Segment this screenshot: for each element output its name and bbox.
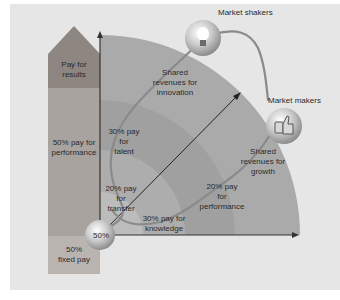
growth-label: Shared revenues for growth xyxy=(228,147,298,177)
y-axis-arrowhead xyxy=(97,31,103,38)
talent-label: 30% pay for talent xyxy=(104,127,144,157)
transfer-label: 20% pay for transfer xyxy=(98,184,144,214)
origin-ball-label: 50% xyxy=(88,231,114,241)
performance-label: 20% pay for performance xyxy=(190,182,254,212)
market-shakers-node xyxy=(185,20,221,56)
market-makers-label: Market makers xyxy=(268,96,338,106)
column-middle xyxy=(48,88,100,236)
fixed-pay-label: 50% fixed pay xyxy=(48,245,100,265)
market-shakers-label: Market shakers xyxy=(218,8,288,18)
performance-pay-label: 50% pay for performance xyxy=(48,138,100,158)
knowledge-label: 30% pay for knowledge xyxy=(134,214,194,234)
market-makers-node xyxy=(266,108,302,144)
pay-for-results-label: Pay for results xyxy=(48,60,100,80)
innovation-label: Shared revenues for innovation xyxy=(140,68,210,98)
